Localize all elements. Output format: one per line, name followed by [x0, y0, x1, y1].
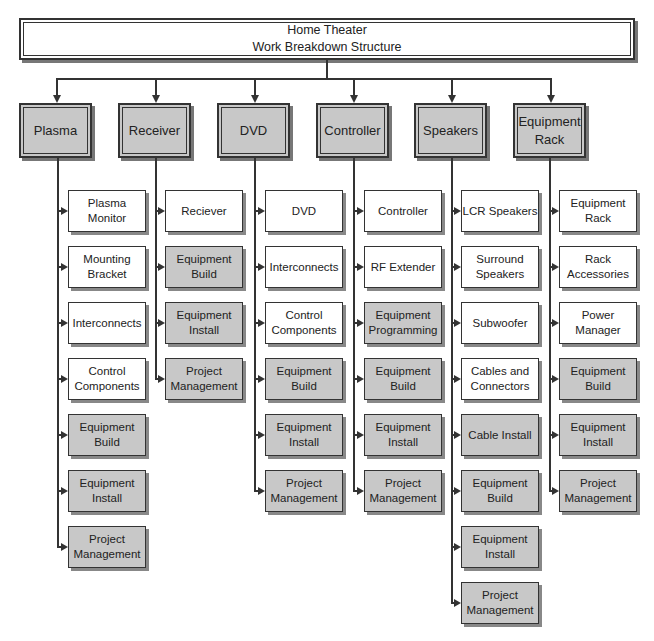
arrow-right-icon: [454, 599, 461, 607]
task-label: Cables and Connectors: [462, 364, 538, 394]
task-box: RF Extender: [364, 246, 442, 288]
arrow-right-icon: [61, 375, 68, 383]
task-box: Project Management: [68, 526, 146, 568]
task-label: LCR Speakers: [463, 204, 538, 219]
task-box: LCR Speakers: [461, 190, 539, 232]
task-label: Interconnects: [269, 260, 338, 275]
connector-trunk: [155, 158, 157, 380]
arrow-right-icon: [552, 375, 559, 383]
category-label: DVD: [240, 122, 267, 140]
task-box: Cable Install: [461, 414, 539, 456]
task-box: Project Management: [559, 470, 637, 512]
task-label: Power Manager: [560, 308, 636, 338]
task-box: Interconnects: [68, 302, 146, 344]
category-box-equipment-rack: Equipment Rack: [513, 103, 586, 158]
task-label: Equipment Install: [69, 476, 145, 506]
task-box: Equipment Install: [265, 414, 343, 456]
task-label: Equipment Build: [166, 252, 242, 282]
task-box: Equipment Build: [165, 246, 243, 288]
arrow-right-icon: [61, 487, 68, 495]
arrow-right-icon: [61, 431, 68, 439]
arrow-right-icon: [158, 319, 165, 327]
task-label: Cable Install: [468, 428, 531, 443]
category-label: Equipment Rack: [515, 113, 584, 149]
task-label: Equipment Rack: [560, 196, 636, 226]
arrow-right-icon: [454, 543, 461, 551]
task-box: Equipment Install: [461, 526, 539, 568]
task-box: Cables and Connectors: [461, 358, 539, 400]
arrow-right-icon: [357, 487, 364, 495]
connector-trunk: [254, 158, 256, 492]
arrow-right-icon: [454, 319, 461, 327]
arrow-right-icon: [357, 263, 364, 271]
category-box-controller: Controller: [316, 103, 389, 158]
task-box: Controller: [364, 190, 442, 232]
root-subtitle: Work Breakdown Structure: [252, 39, 401, 56]
task-label: Equipment Install: [560, 420, 636, 450]
connector-trunk: [549, 158, 551, 492]
task-label: Reciever: [181, 204, 226, 219]
task-label: Equipment Build: [266, 364, 342, 394]
arrow-right-icon: [158, 263, 165, 271]
category-box-speakers: Speakers: [414, 103, 487, 158]
task-label: DVD: [292, 204, 316, 219]
connector-trunk: [353, 158, 355, 492]
task-label: Controller: [378, 204, 428, 219]
connector-drop: [550, 78, 552, 95]
task-label: Equipment Build: [462, 476, 538, 506]
task-box: Equipment Rack: [559, 190, 637, 232]
task-label: Equipment Install: [365, 420, 441, 450]
category-box-dvd: DVD: [217, 103, 290, 158]
task-box: Project Management: [265, 470, 343, 512]
task-box: Equipment Build: [461, 470, 539, 512]
task-label: Equipment Install: [462, 532, 538, 562]
task-box: DVD: [265, 190, 343, 232]
task-box: Equipment Install: [559, 414, 637, 456]
arrow-down-icon: [53, 95, 61, 103]
task-label: Interconnects: [72, 316, 141, 331]
task-label: RF Extender: [371, 260, 436, 275]
task-box: Equipment Build: [68, 414, 146, 456]
task-label: Rack Accessories: [560, 252, 636, 282]
arrow-right-icon: [258, 375, 265, 383]
task-box: Rack Accessories: [559, 246, 637, 288]
task-box: Equipment Install: [68, 470, 146, 512]
task-label: Equipment Build: [365, 364, 441, 394]
connector-trunk: [451, 158, 453, 604]
task-label: Project Management: [462, 588, 538, 618]
task-label: Subwoofer: [473, 316, 528, 331]
arrow-right-icon: [552, 319, 559, 327]
task-box: Equipment Build: [265, 358, 343, 400]
category-box-receiver: Receiver: [118, 103, 191, 158]
task-box: Equipment Install: [165, 302, 243, 344]
task-box: Mounting Bracket: [68, 246, 146, 288]
arrow-right-icon: [258, 431, 265, 439]
category-label: Plasma: [34, 122, 77, 140]
arrow-right-icon: [552, 263, 559, 271]
arrow-right-icon: [258, 319, 265, 327]
arrow-down-icon: [152, 95, 160, 103]
arrow-right-icon: [158, 375, 165, 383]
wbs-root-box: Home Theater Work Breakdown Structure: [19, 18, 635, 60]
task-label: Mounting Bracket: [69, 252, 145, 282]
task-label: Equipment Build: [560, 364, 636, 394]
task-box: Plasma Monitor: [68, 190, 146, 232]
task-label: Project Management: [166, 364, 242, 394]
arrow-right-icon: [61, 263, 68, 271]
task-box: Interconnects: [265, 246, 343, 288]
task-box: Equipment Programming: [364, 302, 442, 344]
arrow-down-icon: [547, 95, 555, 103]
arrow-right-icon: [552, 487, 559, 495]
connector-drop: [254, 78, 256, 95]
arrow-right-icon: [61, 543, 68, 551]
arrow-right-icon: [258, 487, 265, 495]
task-label: Equipment Programming: [365, 308, 441, 338]
arrow-right-icon: [454, 431, 461, 439]
task-label: Project Management: [365, 476, 441, 506]
task-box: Subwoofer: [461, 302, 539, 344]
task-box: Reciever: [165, 190, 243, 232]
root-title: Home Theater: [287, 22, 367, 39]
connector-bus: [56, 78, 550, 80]
arrow-down-icon: [251, 95, 259, 103]
category-box-plasma: Plasma: [19, 103, 92, 158]
